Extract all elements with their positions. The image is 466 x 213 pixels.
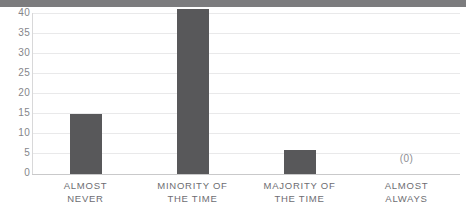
- x-label-line-1: ALMOST: [64, 180, 108, 191]
- top-band-strip: [0, 0, 466, 7]
- y-tick-label: 40: [4, 8, 30, 18]
- x-label-line-2: THE TIME: [139, 192, 246, 205]
- x-label-almost-always: ALMOST ALWAYS: [353, 179, 460, 205]
- y-tick-label: 30: [4, 48, 30, 58]
- y-tick-label: 15: [4, 108, 30, 118]
- bar-slot: [139, 13, 246, 174]
- x-axis-category-labels: ALMOST NEVER MINORITY OF THE TIME MAJORI…: [32, 179, 460, 213]
- x-label-majority-of-the-time: MAJORITY OF THE TIME: [246, 179, 353, 205]
- y-tick-label: 25: [4, 68, 30, 78]
- bar-series: (0): [32, 13, 460, 174]
- x-label-minority-of-the-time: MINORITY OF THE TIME: [139, 179, 246, 205]
- bar-minority-of-the-time[interactable]: [177, 9, 209, 174]
- y-tick-label: 20: [4, 88, 30, 98]
- x-label-line-2: THE TIME: [246, 192, 353, 205]
- x-label-almost-never: ALMOST NEVER: [32, 179, 139, 205]
- x-label-line-1: ALMOST: [385, 180, 429, 191]
- x-label-line-2: ALWAYS: [353, 192, 460, 205]
- y-axis-tick-labels: 40 35 30 25 20 15 10 5 0: [0, 0, 30, 213]
- y-tick-label: 10: [4, 128, 30, 138]
- y-tick-label: 35: [4, 28, 30, 38]
- bar-majority-of-the-time[interactable]: [284, 150, 316, 174]
- bar-slot: [246, 13, 353, 174]
- bar-almost-never[interactable]: [70, 114, 102, 174]
- bar-chart: 40 35 30 25 20 15 10 5 0 (0): [0, 0, 466, 213]
- bar-slot: [32, 13, 139, 174]
- x-label-line-2: NEVER: [32, 192, 139, 205]
- x-label-line-1: MINORITY OF: [157, 180, 227, 191]
- y-tick-label: 5: [4, 148, 30, 158]
- zero-value-label: (0): [400, 153, 413, 164]
- bar-slot: (0): [353, 13, 460, 174]
- x-axis-line: [32, 174, 460, 175]
- x-label-line-1: MAJORITY OF: [264, 180, 336, 191]
- y-tick-label: 0: [4, 168, 30, 178]
